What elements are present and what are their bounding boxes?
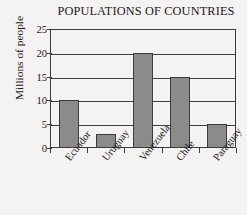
x-tick-mark [50, 148, 51, 153]
y-tick-label: 20 [36, 47, 47, 58]
x-tick-mark [162, 148, 163, 153]
y-tick-label: 15 [36, 71, 47, 82]
bar-chart-figure: POPULATIONS OF COUNTRIES Millions of peo… [0, 0, 247, 215]
y-tick-label: 25 [36, 24, 47, 35]
bars-layer [50, 29, 236, 148]
x-tick-mark [236, 148, 237, 153]
chart-title: POPULATIONS OF COUNTRIES [50, 4, 242, 19]
x-tick-mark [124, 148, 125, 153]
bar [133, 53, 153, 148]
y-tick-label: 10 [36, 95, 47, 106]
x-tick-mark [87, 148, 88, 153]
y-axis-title: Millions of people [13, 0, 25, 118]
x-tick-mark [199, 148, 200, 153]
y-axis-tick-labels: 0510152025 [26, 29, 47, 148]
